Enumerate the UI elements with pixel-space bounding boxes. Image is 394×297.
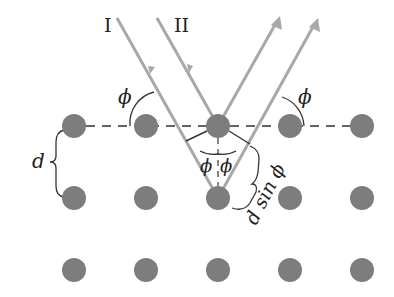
atom [350,114,374,138]
atom [350,258,374,282]
atom [62,186,86,210]
ray-II-label: II [174,14,189,36]
atom [134,258,158,282]
perpendicular-marker-left [186,131,207,141]
ray-I-label: I [104,14,112,36]
atom [278,258,302,282]
perpendicular-marker-right [229,131,250,144]
atom [62,114,86,138]
atom [134,186,158,210]
phi-arc-center-right [218,151,236,154]
phi-label-right: ϕ [298,85,312,109]
bragg-diagram: I II ϕ ϕ ϕ ϕ d d sin ϕ [0,0,394,297]
phi-arc-center-left [200,151,218,154]
atom [206,114,230,138]
atom [62,258,86,282]
phi-label-center-left: ϕ [200,155,212,176]
atom [206,258,230,282]
d-spacing-brace [50,130,64,197]
atom [206,186,230,210]
phi-label-center-right: ϕ [220,155,232,176]
atom [134,114,158,138]
atom [278,114,302,138]
atom [278,186,302,210]
atom [350,186,374,210]
d-spacing-label: d [32,149,45,173]
phi-label-left: ϕ [118,85,132,109]
